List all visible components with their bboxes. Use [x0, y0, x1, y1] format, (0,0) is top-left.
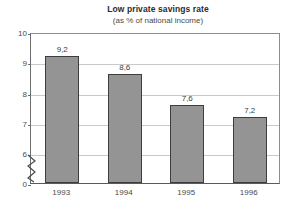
y-axis-tick-mark — [28, 185, 31, 186]
y-axis-tick-label: 7 — [23, 121, 27, 129]
chart-screenshot: Low private savings rate (as % of nation… — [0, 0, 291, 217]
bar[interactable] — [233, 117, 267, 183]
y-axis-tick-label: 8 — [23, 91, 27, 99]
y-axis-tick-label: 10 — [18, 30, 27, 38]
bar-value-label: 7,6 — [170, 94, 204, 103]
bar[interactable] — [45, 56, 79, 183]
x-axis-tick-label: 1996 — [218, 188, 281, 198]
chart-title-block: Low private savings rate (as % of nation… — [30, 4, 286, 26]
x-axis-tick-label: 1995 — [155, 188, 218, 198]
bar-value-label: 7,2 — [233, 106, 267, 115]
plot-area: 1098760 9,28,67,67,2 — [30, 33, 280, 184]
bar-value-label: 8,6 — [108, 63, 142, 72]
x-axis-labels: 1993199419951996 — [30, 188, 280, 202]
bar-group[interactable]: 8,6 — [108, 34, 142, 183]
page-title: Low private savings rate — [30, 4, 286, 15]
chart-subtitle: (as % of national income) — [30, 15, 286, 26]
y-axis-tick-label: 9 — [23, 60, 27, 68]
x-axis-tick-label: 1993 — [30, 188, 93, 198]
x-axis-tick-label: 1994 — [93, 188, 156, 198]
bar-group[interactable]: 7,6 — [170, 34, 204, 183]
bar-value-label: 9,2 — [45, 45, 79, 54]
bar[interactable] — [170, 105, 204, 183]
bar-group[interactable]: 9,2 — [45, 34, 79, 183]
bar[interactable] — [108, 74, 142, 183]
bar-group[interactable]: 7,2 — [233, 34, 267, 183]
bar-series: 9,28,67,67,2 — [31, 34, 279, 183]
